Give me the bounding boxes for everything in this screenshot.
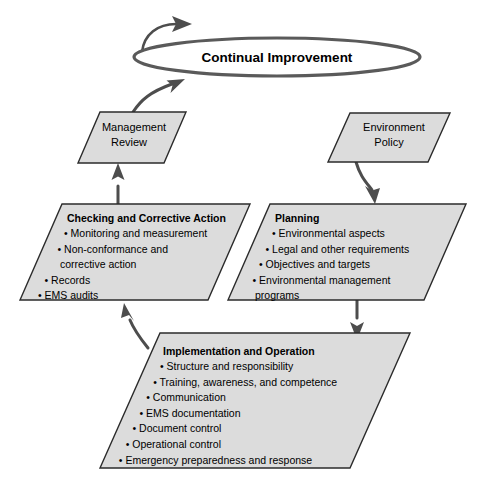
node-bullet-item: • Training, awareness, and competence (153, 376, 337, 388)
node-environment-policy[interactable]: Environment Policy (328, 113, 450, 162)
connector-management-review-to-cycle (133, 79, 185, 112)
connector-policy-to-planning (356, 162, 380, 204)
connector-curve (130, 320, 148, 348)
connector-checking-to-management-review (112, 163, 125, 205)
node-title-line-2: Policy (374, 136, 404, 148)
node-title-line-1: Management (102, 121, 166, 133)
node-title-line-2: Review (111, 136, 147, 148)
connector-curve (356, 162, 372, 190)
node-title: Implementation and Operation (163, 345, 315, 357)
arrow-head-up-left (121, 303, 134, 321)
node-bullet-item: • Structure and responsibility (160, 360, 294, 372)
node-title-line-1: Environment (363, 121, 425, 133)
connector-implementation-to-checking (121, 303, 148, 348)
node-bullet-item: • Environmental management (252, 274, 390, 286)
node-bullet-item: • EMS audits (38, 289, 98, 301)
node-implementation-and-operation[interactable]: Implementation and Operation • Structure… (100, 333, 410, 468)
node-bullet-item: • Records (44, 274, 90, 286)
continual-improvement-cycle: Continual Improvement (134, 38, 420, 76)
diagram-canvas: Continual Improvement Management Review … (0, 0, 482, 490)
connector-curve (133, 84, 172, 112)
ems-cycle-diagram: Continual Improvement Management Review … (0, 0, 482, 490)
node-bullet-item: • Objectives and targets (259, 258, 370, 270)
node-bullet-item: • Operational control (126, 438, 221, 450)
node-bullet-item: • Communication (146, 391, 226, 403)
node-bullet-item: • Legal and other requirements (265, 243, 409, 255)
node-bullet-item: • Environmental aspects (272, 227, 385, 239)
node-bullet-item: • Non-conformance and (57, 243, 168, 255)
node-bullet-item: corrective action (60, 258, 137, 270)
node-planning[interactable]: Planning • Environmental aspects• Legal … (228, 204, 466, 301)
node-bullet-item: • Document control (133, 422, 222, 434)
node-title: Checking and Corrective Action (67, 212, 226, 224)
node-bullet-item: • Monitoring and measurement (64, 227, 207, 239)
node-management-review[interactable]: Management Review (78, 112, 186, 163)
node-bullet-item: programs (255, 289, 299, 301)
node-bullet-item: • Emergency preparedness and response (119, 454, 313, 466)
node-title: Planning (275, 212, 319, 224)
cycle-label: Continual Improvement (202, 50, 353, 65)
arrow-head-up (112, 163, 125, 180)
node-bullet-item: • EMS documentation (139, 407, 240, 419)
node-checking-and-corrective-action[interactable]: Checking and Corrective Action • Monitor… (20, 204, 250, 301)
